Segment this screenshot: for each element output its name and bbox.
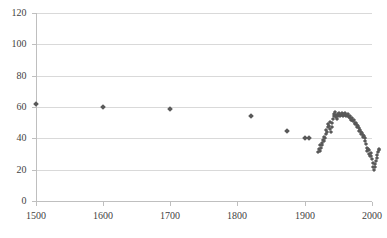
x-tick-mark-2000 [372,202,373,206]
data-point [329,130,333,134]
data-point [284,128,290,134]
x-tick-mark-1900 [305,202,306,206]
y-tick-mark-60 [32,107,36,108]
x-tick-mark-1800 [237,202,238,206]
gridline-y-100 [36,44,373,45]
y-tick-mark-40 [32,138,36,139]
y-tick-mark-0 [32,201,36,202]
y-tick-label-0: 0 [0,196,27,206]
gridline-y-80 [36,76,373,77]
x-tick-mark-1500 [36,202,37,206]
x-tick-label-2000: 2000 [347,211,387,221]
y-tick-label-80: 80 [0,71,27,81]
y-tick-mark-20 [32,170,36,171]
data-point [100,104,106,110]
x-tick-label-1500: 1500 [11,211,61,221]
y-tick-mark-120 [32,13,36,14]
data-point [306,135,312,141]
y-tick-label-20: 20 [0,165,27,175]
data-point [33,101,39,107]
x-tick-label-1800: 1800 [212,211,262,221]
y-tick-label-120: 120 [0,8,27,18]
x-axis-line [36,201,373,202]
y-tick-label-40: 40 [0,133,27,143]
y-tick-mark-80 [32,76,36,77]
gridline-y-120 [36,13,373,14]
x-tick-label-1700: 1700 [145,211,195,221]
data-point [248,113,254,119]
gridline-y-20 [36,170,373,171]
y-tick-mark-100 [32,44,36,45]
y-tick-label-60: 60 [0,102,27,112]
x-tick-mark-1700 [170,202,171,206]
x-tick-mark-1600 [103,202,104,206]
gridline-y-60 [36,107,373,108]
y-tick-label-100: 100 [0,39,27,49]
x-tick-label-1600: 1600 [78,211,128,221]
x-tick-label-1900: 1900 [280,211,330,221]
